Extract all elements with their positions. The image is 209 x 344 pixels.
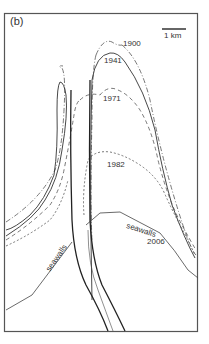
shoreline-2006	[6, 212, 198, 310]
shoreline-1900	[6, 41, 196, 255]
shoreline-1971	[6, 88, 196, 250]
label-1971: 1971	[103, 94, 121, 103]
shoreline-map	[0, 0, 209, 344]
label-1982: 1982	[107, 160, 125, 169]
label-1941: 1941	[104, 56, 122, 65]
label-1900: 1900	[123, 39, 141, 48]
panel-label: (b)	[10, 15, 23, 27]
label-2006: 2006	[147, 237, 165, 246]
shoreline-1941	[6, 53, 195, 300]
channel-bank-right	[90, 80, 126, 331]
shoreline-1982	[6, 152, 195, 255]
scale-bar-label: 1 km	[164, 31, 181, 40]
